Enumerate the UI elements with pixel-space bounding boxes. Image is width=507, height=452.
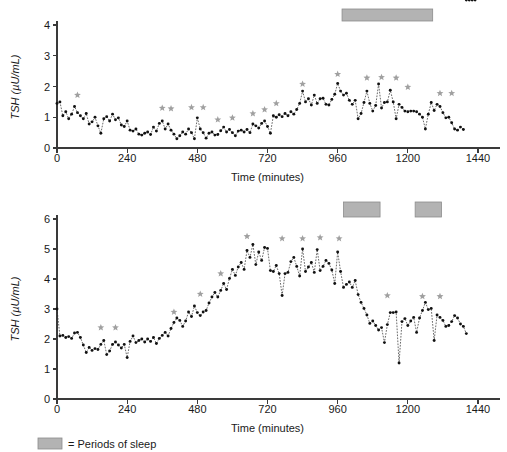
data-point xyxy=(88,346,91,349)
data-point xyxy=(213,134,216,137)
x-axis-title: Time (minutes) xyxy=(231,171,304,183)
data-point xyxy=(61,334,64,337)
data-point xyxy=(120,347,123,350)
data-point xyxy=(403,317,406,320)
data-point xyxy=(336,82,339,85)
data-point xyxy=(295,108,298,111)
data-point xyxy=(257,251,260,254)
data-point xyxy=(447,324,450,327)
data-point xyxy=(289,110,292,113)
data-point xyxy=(336,251,339,254)
data-point xyxy=(172,321,175,324)
significance-star xyxy=(437,293,444,300)
x-axis-tick-label: 480 xyxy=(188,403,206,415)
data-point xyxy=(450,121,453,124)
significance-star xyxy=(404,84,411,91)
data-point xyxy=(228,277,231,280)
data-point xyxy=(219,289,222,292)
data-point xyxy=(392,100,395,103)
data-point xyxy=(345,283,348,286)
data-point xyxy=(67,335,70,338)
data-point xyxy=(319,97,322,100)
significance-star xyxy=(334,71,341,78)
data-point xyxy=(427,308,430,311)
data-point xyxy=(208,302,211,305)
y-axis-title: TSH (µU/mL) xyxy=(9,54,21,119)
y-axis-tick-label: 1 xyxy=(44,363,50,375)
data-point xyxy=(94,116,97,119)
data-point xyxy=(348,281,351,284)
data-point xyxy=(202,131,205,134)
data-point xyxy=(193,305,196,308)
data-point xyxy=(228,128,231,131)
significance-star xyxy=(244,233,251,240)
data-point xyxy=(117,344,120,347)
data-point xyxy=(146,131,149,134)
data-point xyxy=(287,114,290,117)
data-point xyxy=(137,339,140,342)
significance-star xyxy=(229,114,236,121)
data-point xyxy=(190,131,193,134)
data-point xyxy=(146,338,149,341)
significance-star xyxy=(299,235,306,242)
data-point xyxy=(82,117,85,120)
data-point xyxy=(395,311,398,314)
data-point xyxy=(175,137,178,140)
data-point xyxy=(190,315,193,318)
x-axis-tick-label: 480 xyxy=(188,152,206,164)
data-point xyxy=(383,101,386,104)
data-point xyxy=(421,309,424,312)
data-point xyxy=(158,337,161,340)
data-point xyxy=(357,293,360,296)
data-point xyxy=(459,323,462,326)
significance-star xyxy=(336,235,343,242)
data-point xyxy=(126,119,129,122)
data-point xyxy=(304,100,307,103)
data-point xyxy=(231,268,234,271)
data-point xyxy=(453,314,456,317)
data-point xyxy=(319,269,322,272)
data-point xyxy=(222,126,225,129)
data-point xyxy=(249,131,252,134)
data-point xyxy=(377,329,380,332)
data-point xyxy=(395,117,398,120)
data-point xyxy=(313,94,316,97)
y-axis-tick-label: 2 xyxy=(44,81,50,93)
data-point xyxy=(339,90,342,93)
data-point xyxy=(134,341,137,344)
data-point xyxy=(260,259,263,262)
data-point xyxy=(70,113,73,116)
data-point xyxy=(58,335,61,338)
data-point xyxy=(143,341,146,344)
data-point xyxy=(316,248,319,251)
data-point xyxy=(155,342,158,345)
y-axis-tick-label: 2 xyxy=(44,333,50,345)
significance-star xyxy=(168,105,175,112)
y-axis-tick-label: 6 xyxy=(44,213,50,225)
data-point xyxy=(412,110,415,113)
significance-star xyxy=(393,74,400,81)
sleep-period-bar xyxy=(344,202,381,217)
data-point xyxy=(237,130,240,133)
data-point xyxy=(430,307,433,310)
chart-svg-bottom: 0123456024048072096012001440Time (minute… xyxy=(0,186,507,452)
x-axis-tick-label: 1440 xyxy=(466,152,490,164)
data-point xyxy=(287,271,290,274)
data-point xyxy=(415,331,418,334)
chart-panel-bottom: 0123456024048072096012001440Time (minute… xyxy=(0,186,507,452)
significance-star xyxy=(317,234,324,241)
data-point xyxy=(170,129,173,132)
data-point xyxy=(433,339,436,342)
data-point xyxy=(374,324,377,327)
data-point xyxy=(91,120,94,123)
data-point xyxy=(61,114,64,117)
data-point xyxy=(149,133,152,136)
data-point xyxy=(462,325,465,328)
significance-star xyxy=(261,106,268,113)
x-axis-title: Time (minutes) xyxy=(231,422,304,434)
data-point xyxy=(441,111,444,114)
chart-svg-top: 01234024048072096012001440Time (minutes)… xyxy=(0,0,507,186)
data-point xyxy=(56,308,59,311)
data-point xyxy=(94,347,97,350)
data-point xyxy=(67,117,70,120)
